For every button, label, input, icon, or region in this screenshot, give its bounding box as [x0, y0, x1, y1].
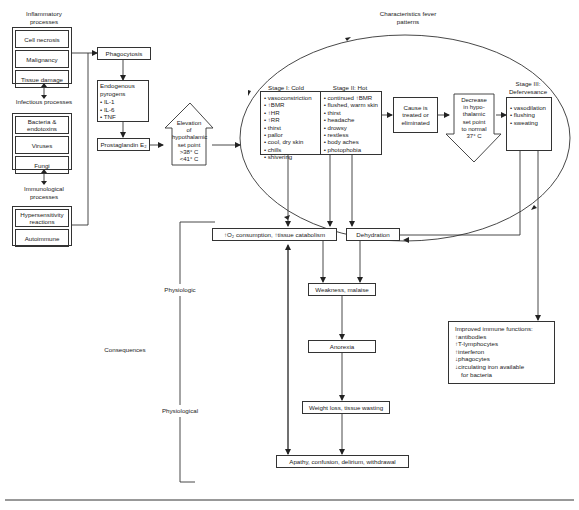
stage1-item: • pallor [264, 131, 317, 138]
immunological-title: Immunological processes [10, 185, 78, 200]
immune-item: for bacteria [455, 371, 548, 379]
immunological-group: Hypersensitivity reactions Autoimmune [12, 206, 72, 246]
stage1-item: • ↑RR [264, 116, 317, 123]
item-hypersensitivity: Hypersensitivity reactions [15, 209, 69, 227]
stage3-item: • vasodilation [510, 104, 548, 111]
stage2-item: • headache [324, 116, 378, 123]
immune-item: ↓circulating iron available [455, 363, 548, 371]
stage2-list: • continued ↑BMR • flushed, warm skin • … [321, 92, 381, 154]
stage2-item: • body aches [324, 138, 378, 145]
fever-patterns-title: Characteristics fever patterns [378, 10, 438, 25]
dehydration-box: Dehydration [346, 228, 400, 241]
immune-item: ↑antibodies [455, 333, 548, 341]
stage1-item: • shivering [264, 153, 317, 160]
pyrogen-tnf: • TNF [98, 113, 148, 121]
fever-diagram: Inflammatory processes Cell necrosis Mal… [0, 0, 579, 510]
decrease-line: 37° C [454, 133, 494, 140]
stage1-list: • vasoconstriction • ↑BMR • ↑HR • ↑RR • … [261, 92, 321, 154]
anorexia-box: Anorexia [308, 340, 376, 353]
elevation-line: set point [172, 142, 206, 149]
elevation-line: <41° C [172, 156, 206, 163]
inflammatory-title: Inflammatory processes [12, 10, 76, 25]
immune-box: Improved immune functions: ↑antibodies ↑… [448, 321, 555, 384]
weight-loss-box: Weight loss, tissue wasting [302, 401, 390, 414]
item-autoimmune: Autoimmune [15, 229, 69, 247]
decrease-line: in hypo- [454, 104, 494, 111]
item-bacteria: Bacteria & endotoxins [15, 116, 69, 134]
consequences-label: Consequences [100, 346, 150, 354]
stage2-item: • drowsy [324, 124, 378, 131]
item-cell-necrosis: Cell necrosis [15, 30, 69, 48]
stage2-item: • restless [324, 131, 378, 138]
stage1-item: • thirst [264, 124, 317, 131]
physiological-label: Physiological [158, 407, 202, 415]
inflammatory-group: Cell necrosis Malignancy Tissue damage [12, 27, 72, 84]
immune-item: ↓phagocytes [455, 355, 548, 363]
decrease-text: Decrease in hypo- thalamic set point to … [454, 97, 494, 140]
stage2-item: • flushed, warm skin [324, 101, 378, 108]
stage1-item: • cool, dry skin [264, 138, 317, 145]
infectious-title: Infectious processes [12, 98, 76, 106]
stage3-item: • sweating [510, 119, 548, 126]
pyrogen-il1: • IL-1 [98, 98, 148, 106]
stage3-box: • vasodilation • flushing • sweating [506, 97, 552, 151]
stage3-item: • flushing [510, 111, 548, 118]
immune-item: ↑interferon [455, 348, 548, 356]
cause-box: Cause is treated or eliminated [393, 97, 438, 133]
pyrogens-box: Endogenous pyrogens • IL-1 • IL-6 • TNF [97, 80, 149, 122]
stage2-item: • photophobia [324, 146, 378, 153]
pyrogen-il6: • IL-6 [98, 106, 148, 114]
stage2-item: • continued ↑BMR [324, 94, 378, 101]
apathy-box: Apathy, confusion, delirium, withdrawal [276, 455, 409, 468]
elevation-text: Elevation of hypothalamic set point >38°… [172, 120, 206, 163]
immune-item: ↑T-lymphocytes [455, 340, 548, 348]
stage1-item: • ↑BMR [264, 101, 317, 108]
connector-lines [0, 0, 579, 510]
decrease-line: Decrease [454, 97, 494, 104]
stage2-item: • thirst [324, 109, 378, 116]
item-fungi: Fungi [15, 156, 69, 174]
stage3-list: • vasodilation • flushing • sweating [507, 98, 551, 128]
decrease-line: set point [454, 119, 494, 126]
o2-consumption-box: ↑O₂ consumption, ↑tissue catabolism [212, 228, 337, 241]
elevation-line: of [172, 127, 206, 134]
phagocytosis-box: Phagocytosis [97, 47, 151, 60]
stage1-item: • chills [264, 146, 317, 153]
item-tissue-damage: Tissue damage [15, 70, 69, 88]
decrease-line: to normal [454, 126, 494, 133]
elevation-line: Elevation [172, 120, 206, 127]
prostaglandin-box: Prostaglandin E₂ [97, 138, 150, 151]
stage1-2-box: • vasoconstriction • ↑BMR • ↑HR • ↑RR • … [260, 91, 382, 155]
pyrogens-title: Endogenous pyrogens [98, 81, 148, 98]
immune-title: Improved immune functions: [455, 325, 548, 333]
stage1-item: • ↑HR [264, 109, 317, 116]
stage1-item: • vasoconstriction [264, 94, 317, 101]
stage3-title: Stage III: Defervesance [505, 80, 551, 95]
item-malignancy: Malignancy [15, 50, 69, 68]
weakness-box: Weakness, malaise [308, 283, 376, 296]
elevation-line: >38° C [172, 149, 206, 156]
decrease-line: thalamic [454, 111, 494, 118]
physiologic-label: Physiologic [160, 286, 200, 294]
infectious-group: Bacteria & endotoxins Viruses Fungi [12, 113, 72, 170]
item-viruses: Viruses [15, 136, 69, 154]
elevation-line: hypothalamic [172, 134, 206, 141]
